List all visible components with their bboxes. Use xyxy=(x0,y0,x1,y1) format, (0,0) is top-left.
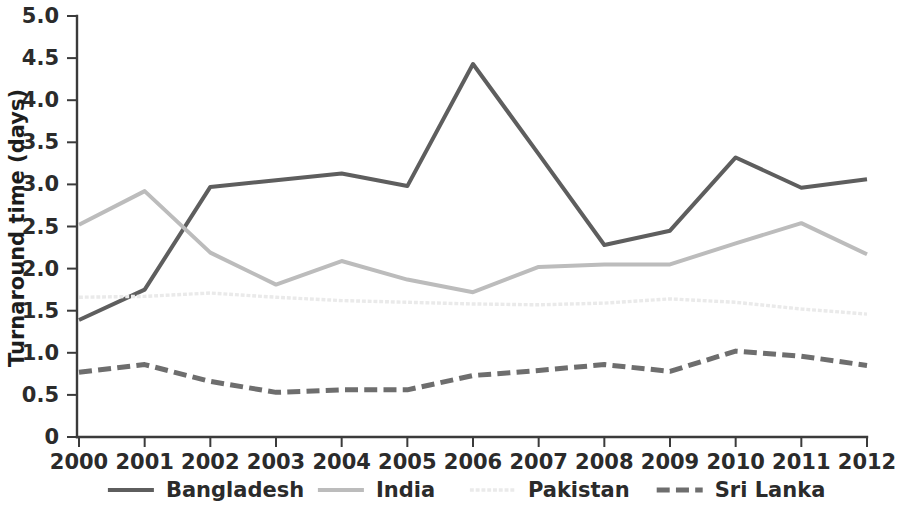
x-axis-tick-label: 2012 xyxy=(838,450,896,474)
line-chart: 00.51.01.52.02.53.03.54.04.55.0 20002001… xyxy=(0,0,899,506)
legend-label: Bangladesh xyxy=(166,478,304,502)
y-axis-tick-label: 5.0 xyxy=(22,4,59,28)
legend-item-india: India xyxy=(318,478,435,502)
x-axis: 2000200120022003200420052006200720082009… xyxy=(50,437,896,474)
legend-label: India xyxy=(376,478,435,502)
legend-label: Sri Lanka xyxy=(715,478,826,502)
y-axis-tick-label: 0.5 xyxy=(22,383,59,407)
y-axis-title: Turnaround time (days) xyxy=(5,89,29,367)
y-axis-tick-label: 4.5 xyxy=(22,46,59,70)
chart-legend: BangladeshIndiaPakistanSri Lanka xyxy=(108,478,825,502)
x-axis-tick-label: 2005 xyxy=(378,450,436,474)
x-axis-tick-label: 2002 xyxy=(181,450,239,474)
x-axis-tick-label: 2010 xyxy=(706,450,764,474)
legend-label: Pakistan xyxy=(528,478,630,502)
series-line-pakistan xyxy=(79,293,867,314)
x-axis-tick-label: 2004 xyxy=(312,450,370,474)
legend-item-bangladesh: Bangladesh xyxy=(108,478,304,502)
y-axis-tick-label: 0 xyxy=(44,425,59,449)
series-line-bangladesh xyxy=(79,64,867,320)
legend-item-pakistan: Pakistan xyxy=(470,478,630,502)
data-series-group xyxy=(79,64,867,392)
series-line-sri-lanka xyxy=(79,351,867,392)
x-axis-tick-label: 2006 xyxy=(444,450,502,474)
x-axis-tick-label: 2009 xyxy=(641,450,699,474)
y-axis: 00.51.01.52.02.53.03.54.04.55.0 xyxy=(22,4,77,449)
legend-item-sri-lanka: Sri Lanka xyxy=(657,478,826,502)
x-axis-tick-label: 2007 xyxy=(509,450,567,474)
x-axis-tick-label: 2003 xyxy=(247,450,305,474)
x-axis-tick-label: 2001 xyxy=(115,450,173,474)
x-axis-tick-label: 2011 xyxy=(772,450,830,474)
chart-canvas: 00.51.01.52.02.53.03.54.04.55.0 20002001… xyxy=(0,0,899,506)
x-axis-tick-label: 2000 xyxy=(50,450,108,474)
x-axis-tick-label: 2008 xyxy=(575,450,633,474)
